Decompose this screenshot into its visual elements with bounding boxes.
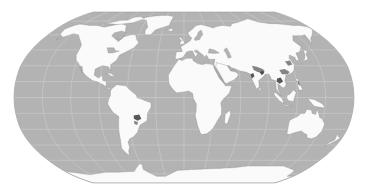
world-map-canvas xyxy=(0,0,369,195)
world-map xyxy=(0,0,369,195)
